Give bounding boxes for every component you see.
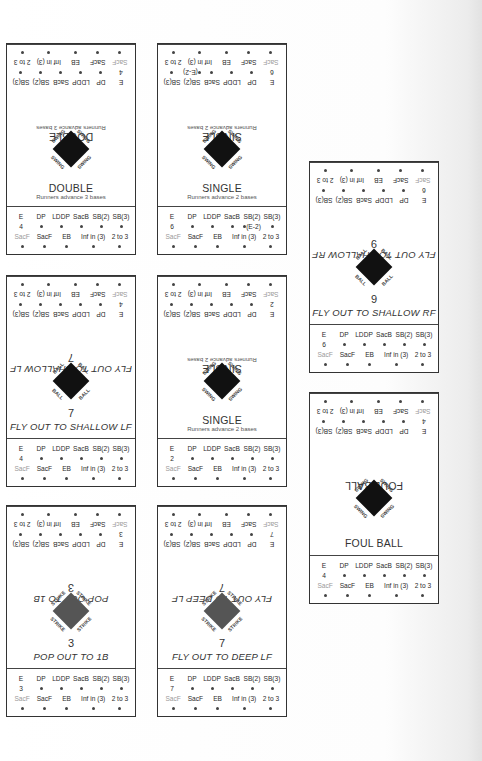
stat-value	[11, 512, 33, 519]
stat-header: 2 to 3	[162, 292, 184, 299]
stats-panel-inverted: EDPLDDPSacBSB(2)SB(3) 4 SacFSacFEBInf in…	[310, 393, 438, 441]
stat-value	[87, 50, 109, 57]
stat-value: 7	[262, 532, 282, 539]
stat-header: EB	[367, 178, 389, 185]
stat-value	[202, 532, 222, 539]
stat-value: 4	[11, 223, 31, 230]
stat-value	[91, 70, 111, 77]
stat-value	[55, 475, 77, 482]
stat-value	[162, 532, 182, 539]
stat-header: EB	[55, 695, 77, 702]
stats-panel: EDPLDDPSacBSB(2)SB(3) 6 SacFSacFEBInf in…	[310, 324, 438, 372]
stat-value	[390, 168, 412, 175]
stat-header: SacF	[109, 292, 131, 299]
stat-value	[414, 572, 434, 579]
play-card-double[interactable]: EDPLDDPSacBSB(2)SB(3) 4 SacFSacFEBInf in…	[6, 43, 136, 255]
stat-value	[51, 532, 71, 539]
stat-header: SacF	[11, 465, 33, 472]
stat-header: SacB	[71, 675, 91, 682]
stat-value: 6	[162, 223, 182, 230]
stat-value	[162, 70, 182, 77]
stat-header: DP	[91, 312, 111, 319]
stats-panel-inverted: EDPLDDPSacBSB(2)SB(3) 6(E-2) SacFSacFEBI…	[158, 44, 286, 92]
stat-value	[394, 572, 414, 579]
card-title: DOUBLE	[49, 182, 93, 194]
stat-header: EB	[64, 522, 86, 529]
stat-value	[334, 188, 354, 195]
stat-value	[412, 168, 434, 175]
stat-header: EB	[55, 465, 77, 472]
stat-value	[31, 685, 51, 692]
stats-panel-inverted: EDPLDDPSacBSB(2)SB(3) 2 SacFSacFEBInf in…	[158, 276, 286, 324]
stat-value	[202, 70, 222, 77]
stat-value	[184, 282, 215, 289]
stats-panel-inverted: EDPLDDPSacBSB(2)SB(3) 4 SacFSacFEBInf in…	[7, 44, 135, 92]
stat-value	[206, 705, 228, 712]
card-title: SINGLE	[202, 414, 242, 426]
stat-header: Inf in (3)	[33, 60, 64, 67]
play-card-single-1[interactable]: EDPLDDPSacBSB(2)SB(3) 6(E-2) SacFSacFEBI…	[157, 43, 287, 255]
stat-header: SacF	[109, 522, 131, 529]
card-center: FLY OUT TO DEEP LF 7 STRIKE STRIKE STRIK…	[158, 554, 286, 668]
stat-header: Inf in (3)	[229, 465, 260, 472]
stat-value	[31, 302, 51, 309]
card-title: POP OUT TO 1B	[34, 651, 109, 662]
stat-value: (E-2)	[242, 223, 262, 230]
card-center: DOUBLE Runners advance 3 bases SWING SWI…	[7, 92, 135, 206]
stat-value	[33, 512, 64, 519]
stat-header: SacF	[238, 292, 260, 299]
stat-header: Inf in (3)	[184, 60, 215, 67]
stat-value	[111, 685, 131, 692]
card-center: SINGLE Runners advance 2 bases SWING SWI…	[158, 92, 286, 206]
stat-header: Inf in (3)	[33, 522, 64, 529]
stat-value	[162, 302, 182, 309]
stat-header: LDDP	[51, 675, 71, 682]
stat-header: DP	[91, 80, 111, 87]
stat-header: DP	[182, 213, 202, 220]
stat-value	[222, 302, 242, 309]
stat-value	[162, 705, 184, 712]
stat-header: SacF	[314, 582, 336, 589]
stat-value	[412, 399, 434, 406]
play-card-fly-deep-lf[interactable]: EDPLDDPSacBSB(2)SB(3) 7 SacFSacFEBInf in…	[157, 505, 287, 717]
stat-value	[11, 243, 33, 250]
stat-header: EB	[206, 695, 228, 702]
stat-value	[33, 50, 64, 57]
stat-header: E	[262, 312, 282, 319]
stat-value	[91, 223, 111, 230]
stat-value	[184, 512, 215, 519]
stat-value	[78, 705, 109, 712]
stat-header: SB(2)	[182, 80, 202, 87]
stat-value	[374, 188, 394, 195]
stat-header: SacF	[109, 60, 131, 67]
stat-value	[222, 70, 242, 77]
play-card-foul-ball[interactable]: EDPLDDPSacBSB(2)SB(3) 4 SacFSacFEBInf in…	[309, 392, 439, 604]
play-card-fly-shallow-rf[interactable]: EDPLDDPSacBSB(2)SB(3) 6 SacFSacFEBInf in…	[309, 161, 439, 373]
stat-header: EB	[215, 522, 237, 529]
stat-header: SacB	[202, 80, 222, 87]
stat-value	[260, 475, 282, 482]
stat-header: LDDP	[71, 542, 91, 549]
stat-header: E	[111, 312, 131, 319]
stat-value	[222, 455, 242, 462]
stats-panel: EDPLDDPSacBSB(2)SB(3) 4 SacFSacFEBInf in…	[7, 206, 135, 254]
play-card-fly-shallow-lf[interactable]: EDPLDDPSacBSB(2)SB(3) 4 SacFSacFEBInf in…	[6, 275, 136, 487]
stat-value: 2	[162, 455, 182, 462]
stat-value	[336, 168, 367, 175]
stat-value	[31, 455, 51, 462]
stat-header: SB(2)	[242, 675, 262, 682]
stat-header: Inf in (3)	[78, 695, 109, 702]
stat-value	[222, 532, 242, 539]
stats-panel-inverted: EDPLDDPSacBSB(2)SB(3) 3 SacFSacFEBInf in…	[7, 506, 135, 554]
play-card-pop-1b[interactable]: EDPLDDPSacBSB(2)SB(3) 3 SacFSacFEBInf in…	[6, 505, 136, 717]
stat-header: 2 to 3	[109, 233, 131, 240]
stat-header: E	[262, 542, 282, 549]
stat-header: SacF	[184, 695, 206, 702]
play-card-single-2[interactable]: EDPLDDPSacBSB(2)SB(3) 2 SacFSacFEBInf in…	[157, 275, 287, 487]
stat-value	[412, 361, 434, 368]
stat-value	[64, 50, 86, 57]
stat-header: SacF	[314, 351, 336, 358]
stat-header: SacF	[260, 522, 282, 529]
stat-header: LDDP	[354, 331, 374, 338]
stat-header: E	[314, 331, 334, 338]
